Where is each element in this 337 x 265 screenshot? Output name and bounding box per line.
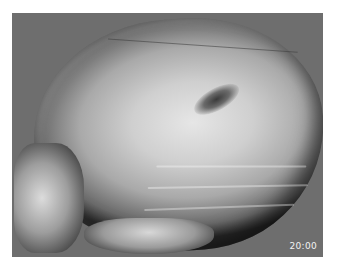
ct-render-viewport: 20:00: [12, 13, 323, 257]
surface-contour-line: [148, 184, 308, 189]
skull-base-render: [84, 218, 214, 254]
skull-fracture-depression: [189, 78, 243, 121]
surface-contour-line: [156, 165, 306, 167]
surface-contour-line: [144, 204, 294, 211]
facial-bones-render: [14, 143, 84, 253]
coronal-suture: [108, 38, 298, 52]
timestamp-label: 20:00: [290, 241, 317, 251]
